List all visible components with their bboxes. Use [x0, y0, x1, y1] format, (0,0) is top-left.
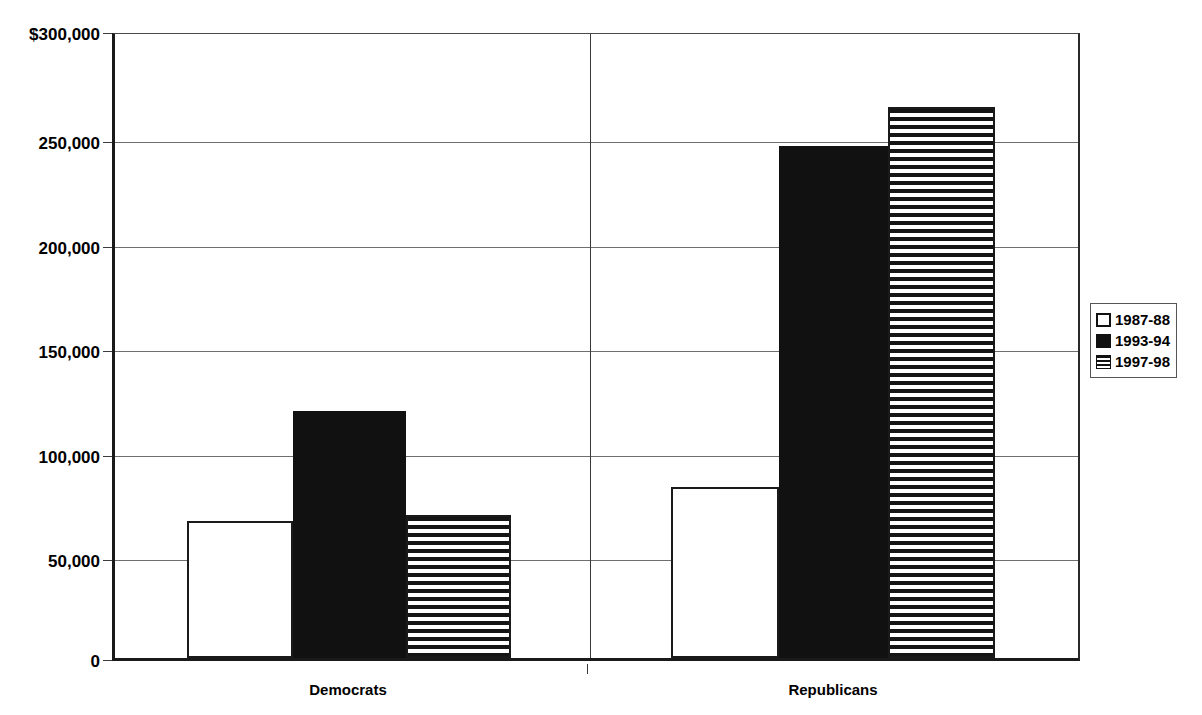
y-axis-tick-mark-200000 — [103, 247, 112, 248]
legend-label-1997-98: 1997-98 — [1115, 354, 1170, 369]
y-axis-tick-label-100000: 100,000 — [0, 448, 100, 468]
legend-swatch-open-icon — [1096, 313, 1111, 327]
bar-chart: $300,000 250,000 200,000 150,000 100,000… — [0, 0, 1202, 715]
x-axis-tick-mark-center — [587, 664, 588, 674]
bar-democrats-1997-98 — [406, 515, 511, 658]
bar-republicans-1987-88 — [671, 487, 779, 658]
y-axis-tick-mark-150000 — [103, 351, 112, 352]
bar-democrats-1987-88 — [187, 521, 293, 658]
y-axis-tick-mark-300000 — [103, 33, 112, 34]
y-axis-tick-mark-250000 — [103, 142, 112, 143]
legend-swatch-hstripe-icon — [1096, 355, 1111, 369]
x-axis-label-democrats: Democrats — [248, 681, 448, 698]
legend-item-1993-94: 1993-94 — [1096, 330, 1170, 351]
y-axis-tick-label-0: 0 — [0, 652, 100, 672]
plot-area — [112, 33, 1080, 661]
legend-item-1997-98: 1997-98 — [1096, 351, 1170, 372]
y-axis-tick-mark-0 — [103, 660, 112, 661]
legend-swatch-solid-icon — [1096, 334, 1111, 348]
category-separator — [590, 34, 591, 658]
legend-label-1993-94: 1993-94 — [1115, 333, 1170, 348]
legend-item-1987-88: 1987-88 — [1096, 309, 1170, 330]
bar-democrats-1993-94 — [293, 411, 406, 658]
y-axis-tick-label-50000: 50,000 — [0, 552, 100, 572]
x-axis-label-republicans: Republicans — [733, 681, 933, 698]
bar-republicans-1993-94 — [779, 146, 888, 658]
y-axis-tick-label-200000: 200,000 — [0, 239, 100, 259]
y-axis-tick-mark-100000 — [103, 456, 112, 457]
y-axis-tick-label-250000: 250,000 — [0, 134, 100, 154]
bar-republicans-1997-98 — [888, 107, 995, 658]
y-axis-tick-label-300000: $300,000 — [0, 25, 100, 45]
legend: 1987-88 1993-94 1997-98 — [1090, 303, 1177, 378]
legend-label-1987-88: 1987-88 — [1115, 312, 1170, 327]
y-axis-tick-mark-50000 — [103, 560, 112, 561]
y-axis-tick-label-150000: 150,000 — [0, 343, 100, 363]
